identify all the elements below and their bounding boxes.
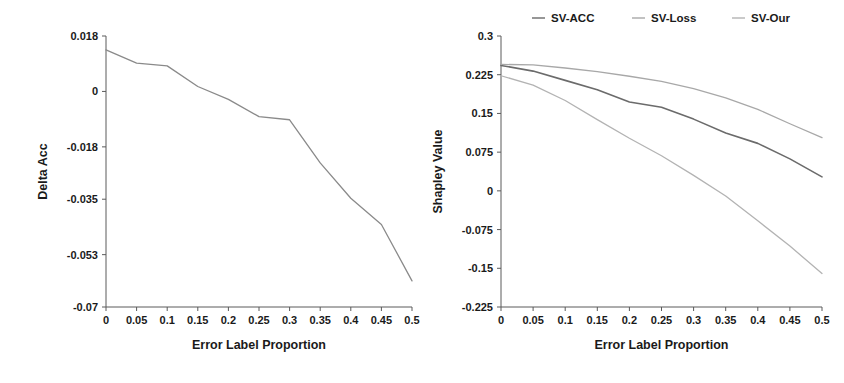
x-tick-label: 0.25 bbox=[248, 314, 269, 326]
x-tick-label: 0.15 bbox=[587, 314, 608, 326]
x-tick-label: 0.3 bbox=[686, 314, 701, 326]
y-tick-label: 0.15 bbox=[472, 107, 493, 119]
x-tick-label: 0.45 bbox=[779, 314, 800, 326]
x-axis-title: Error Label Proportion bbox=[594, 338, 728, 352]
x-tick-label: 0.1 bbox=[558, 314, 573, 326]
x-tick-label: 0.15 bbox=[187, 314, 208, 326]
y-tick-label: 0.075 bbox=[465, 146, 493, 158]
legend-label-sv-acc: SV-ACC bbox=[551, 12, 594, 24]
x-tick-label: 0.2 bbox=[221, 314, 236, 326]
x-tick-label: 0.35 bbox=[309, 314, 330, 326]
x-tick-label: 0.5 bbox=[814, 314, 829, 326]
figure-root: 0.0180-0.018-0.035-0.053-0.0700.050.10.1… bbox=[0, 0, 844, 383]
y-tick-label: 0 bbox=[92, 85, 98, 97]
x-tick-label: 0.45 bbox=[371, 314, 392, 326]
x-tick-label: 0.1 bbox=[160, 314, 175, 326]
shapley-value-plot: 0.30.2250.150.0750-0.075-0.15-0.22500.05… bbox=[422, 0, 844, 383]
delta-acc-plot: 0.0180-0.018-0.035-0.053-0.0700.050.10.1… bbox=[0, 0, 422, 383]
legend-label-sv-loss: SV-Loss bbox=[651, 12, 696, 24]
y-axis-title: Delta Acc bbox=[36, 143, 50, 200]
y-tick-label: -0.07 bbox=[73, 301, 98, 313]
y-tick-label: 0 bbox=[487, 185, 493, 197]
x-tick-label: 0.35 bbox=[715, 314, 736, 326]
y-tick-label: 0.018 bbox=[70, 30, 98, 42]
chart-panel-shapley-value: 0.30.2250.150.0750-0.075-0.15-0.22500.05… bbox=[422, 0, 844, 383]
x-tick-label: 0.3 bbox=[282, 314, 297, 326]
x-tick-label: 0.2 bbox=[622, 314, 637, 326]
y-tick-label: -0.035 bbox=[67, 193, 98, 205]
axis-spines bbox=[106, 36, 412, 307]
y-axis-title: Shapley Value bbox=[431, 129, 445, 213]
y-tick-label: -0.225 bbox=[462, 301, 493, 313]
x-tick-label: 0.05 bbox=[126, 314, 147, 326]
x-axis-title: Error Label Proportion bbox=[192, 338, 326, 352]
x-tick-label: 0.4 bbox=[343, 314, 359, 326]
x-tick-label: 0 bbox=[498, 314, 504, 326]
x-tick-label: 0 bbox=[103, 314, 109, 326]
y-tick-label: -0.15 bbox=[468, 262, 493, 274]
y-tick-label: 0.225 bbox=[465, 69, 493, 81]
x-tick-label: 0.05 bbox=[522, 314, 543, 326]
series-line-delta-acc bbox=[106, 50, 412, 281]
series-line-sv-our bbox=[501, 76, 822, 274]
y-tick-label: -0.075 bbox=[462, 224, 493, 236]
x-tick-label: 0.25 bbox=[651, 314, 672, 326]
legend-label-sv-our: SV-Our bbox=[751, 12, 791, 24]
x-tick-label: 0.4 bbox=[750, 314, 766, 326]
y-tick-label: -0.053 bbox=[67, 249, 98, 261]
y-tick-label: 0.3 bbox=[478, 30, 493, 42]
series-line-sv-acc bbox=[501, 65, 822, 177]
axis-spines bbox=[501, 36, 822, 307]
chart-panel-delta-acc: 0.0180-0.018-0.035-0.053-0.0700.050.10.1… bbox=[0, 0, 422, 383]
y-tick-label: -0.018 bbox=[67, 141, 98, 153]
x-tick-label: 0.5 bbox=[404, 314, 419, 326]
